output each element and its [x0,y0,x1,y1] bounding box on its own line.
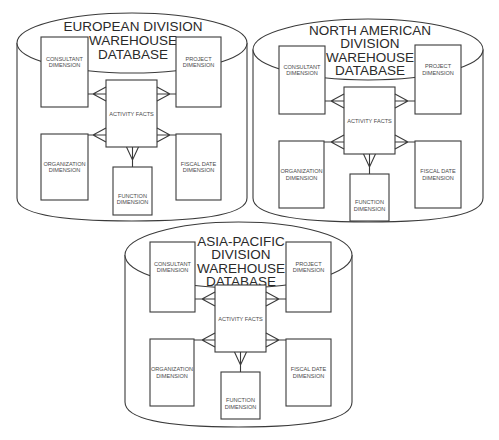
table-label: DIMENSION [422,70,454,76]
table-label: DIMENSION [183,62,215,68]
table-box [113,167,152,215]
table-label: CONSULTANT [283,64,321,70]
database-title-line: EUROPEAN DIVISION [64,19,203,34]
database-title-line: DATABASE [98,47,168,62]
consultant-dimension-table[interactable]: CONSULTANTDIMENSION [41,37,88,107]
activity-facts-table[interactable]: ACTIVITY FACTS [344,87,395,154]
north-american-database-cylinder: NORTH AMERICANDIVISIONWAREHOUSEDATABASEC… [253,19,483,222]
project-dimension-table[interactable]: PROJECTDIMENSION [415,45,461,114]
table-label: DIMENSION [49,62,81,68]
table-label: ORGANIZATION [43,161,85,167]
activity-facts-table[interactable]: ACTIVITY FACTS [215,285,266,352]
table-label: DIMENSION [49,167,81,173]
table-label: DIMENSION [183,167,215,173]
table-label: DIMENSION [286,70,318,76]
table-box [286,242,331,312]
database-title-line: DIVISION [211,247,270,262]
project-dimension-table[interactable]: PROJECTDIMENSION [176,37,221,107]
warehouse-diagram: EUROPEAN DIVISIONWAREHOUSEDATABASECONSUL… [0,0,499,440]
database-title-line: WAREHOUSE [89,33,177,48]
table-label: ACTIVITY FACTS [218,316,263,322]
database-title-line: DIVISION [340,36,399,51]
table-label: FUNCTION [118,193,147,199]
table-label: FUNCTION [355,199,384,205]
table-box [150,242,195,312]
table-label: ACTIVITY FACTS [347,118,392,124]
table-label: ACTIVITY FACTS [109,111,154,117]
table-label: ORGANIZATION [280,168,322,174]
fiscal-date-dimension-table[interactable]: FISCAL DATEDIMENSION [286,339,331,406]
asia-pacific-database-cylinder: ASIA-PACIFICDIVISIONWAREHOUSEDATABASECON… [125,222,352,427]
database-title-line: DATABASE [335,63,405,78]
fiscal-date-dimension-table[interactable]: FISCAL DATEDIMENSION [415,141,461,208]
table-box [221,372,260,419]
table-label: CONSULTANT [46,56,84,62]
table-label: DIMENSION [354,206,386,212]
table-box [176,37,221,107]
table-label: FISCAL DATE [420,168,456,174]
table-label: DIMENSION [157,267,189,273]
table-label: CONSULTANT [154,261,192,267]
table-label: DIMENSION [293,373,325,379]
table-label: FUNCTION [226,397,255,403]
table-label: ORGANIZATION [151,366,193,372]
table-label: DIMENSION [117,199,149,205]
function-dimension-table[interactable]: FUNCTIONDIMENSION [221,372,260,419]
table-label: FISCAL DATE [291,366,327,372]
table-label: DIMENSION [422,175,454,181]
table-box [415,45,461,114]
table-label: FISCAL DATE [181,161,217,167]
table-box [41,37,88,107]
table-label: DIMENSION [156,373,188,379]
table-box [279,46,325,114]
fiscal-date-dimension-table[interactable]: FISCAL DATEDIMENSION [176,134,221,200]
project-dimension-table[interactable]: PROJECTDIMENSION [286,242,331,312]
organization-dimension-table[interactable]: ORGANIZATIONDIMENSION [41,134,88,200]
table-label: PROJECT [185,56,212,62]
activity-facts-table[interactable]: ACTIVITY FACTS [106,80,157,147]
organization-dimension-table[interactable]: ORGANIZATIONDIMENSION [279,141,324,208]
table-label: PROJECT [425,63,452,69]
table-label: DIMENSION [225,404,257,410]
table-box [350,174,389,221]
organization-dimension-table[interactable]: ORGANIZATIONDIMENSION [150,339,194,406]
table-label: DIMENSION [293,267,325,273]
european-database-cylinder: EUROPEAN DIVISIONWAREHOUSEDATABASECONSUL… [17,13,247,221]
function-dimension-table[interactable]: FUNCTIONDIMENSION [113,167,152,215]
consultant-dimension-table[interactable]: CONSULTANTDIMENSION [279,46,325,114]
function-dimension-table[interactable]: FUNCTIONDIMENSION [350,174,389,221]
table-label: PROJECT [295,261,322,267]
table-label: DIMENSION [286,175,318,181]
consultant-dimension-table[interactable]: CONSULTANTDIMENSION [150,242,195,312]
